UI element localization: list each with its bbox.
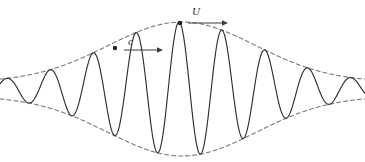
carrier-wave-curve: [0, 22, 365, 154]
phase-velocity-annotation: [113, 46, 163, 53]
group-velocity-label: U: [192, 6, 200, 17]
lower-envelope-curve: [0, 99, 365, 156]
wave-packet-svg: [0, 0, 365, 162]
wave-packet-figure: c U: [0, 0, 365, 162]
group-velocity-annotation: [178, 20, 228, 26]
group-velocity-arrowhead: [222, 20, 228, 26]
phase-velocity-label: c: [128, 36, 133, 47]
carrier-group: [0, 22, 365, 154]
envelope-group: [0, 22, 365, 156]
phase-velocity-dot: [113, 46, 117, 50]
phase-velocity-arrowhead: [157, 47, 163, 53]
group-velocity-dot: [178, 21, 182, 25]
